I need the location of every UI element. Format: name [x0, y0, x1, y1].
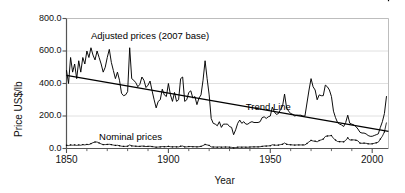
x-axis-tick-label: 2000: [349, 154, 395, 165]
y-axis-tick-label: 200.0: [22, 110, 62, 120]
x-axis-title: Year: [215, 175, 235, 186]
y-axis-tick-label: 0.0: [22, 143, 62, 153]
x-axis-tick-label: 1900: [145, 154, 191, 165]
x-axis-tick-label: 1950: [247, 154, 293, 165]
adjusted-prices-label: Adjusted prices (2007 base): [91, 30, 209, 41]
y-axis-tick-label: 800.0: [22, 13, 62, 23]
y-axis-tick-label: 400.0: [22, 78, 62, 88]
x-axis-tick-label: 1850: [44, 154, 90, 165]
price-chart-figure: 0.0200.0400.0600.0800.0 1850190019502000…: [0, 0, 405, 193]
x-axis-ticks: [67, 149, 373, 154]
nominal-prices-label: Nominal prices: [99, 131, 162, 142]
y-axis-title: Price US$/lb: [13, 81, 24, 137]
trend-line-label: Trend Line: [246, 101, 291, 112]
y-axis-tick-label: 600.0: [22, 45, 62, 55]
